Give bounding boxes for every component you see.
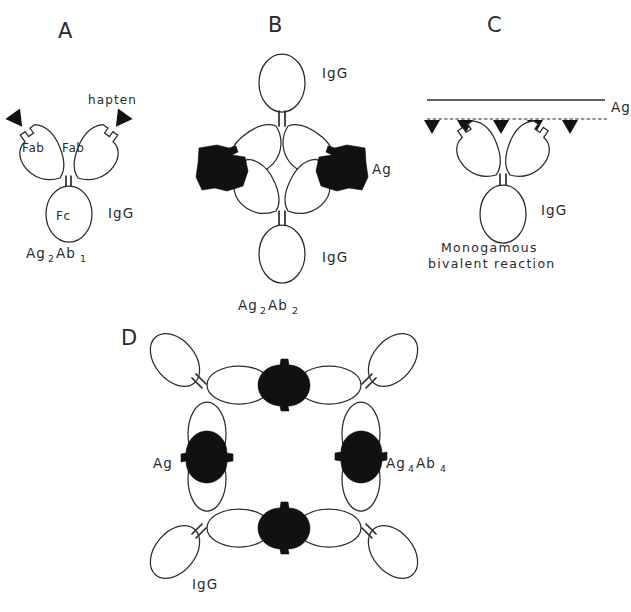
fab-left-label: Fab [22,141,45,155]
panel-b-fc-bottom [259,225,305,283]
formula-ab-sub: 4 [440,463,447,474]
formula-ab-sub: 2 [292,305,299,316]
panel-c-letter: C [487,13,502,37]
epitope-icon-5 [562,120,578,134]
panel-a-igg-label: IgG [108,205,134,221]
formula-ag: Ag [238,297,258,313]
panel-d-letter: D [121,326,137,350]
panel-a: A hapten Fab Fab Fc IgG Ag 2 Ab [5,19,136,264]
formula-ag-sub: 2 [260,305,267,316]
panel-b-letter: B [268,13,282,37]
panel-d-antigen-top [258,359,310,411]
formula-ab: Ab [56,245,76,261]
panel-d-igg-label: IgG [192,576,218,592]
formula-ag-sub: 2 [48,253,55,264]
panel-b-igg-top-label: IgG [322,65,348,81]
formula-ab: Ab [416,455,436,471]
panel-b-ag-label: Ag [372,161,392,177]
hapten-right-icon [109,108,133,132]
panel-d-formula: Ag 4 Ab 4 [386,455,447,474]
epitope-row [424,120,578,134]
formula-ag: Ag [26,245,46,261]
panel-b-formula: Ag 2 Ab 2 [238,297,299,316]
panel-a-hapten-label: hapten [88,93,137,107]
panel-c-caption-line2: bivalent reaction [428,256,556,271]
panel-d: D [121,324,447,592]
panel-c-fc [480,185,526,243]
hapten-left-icon [5,108,29,132]
panel-d-ag-label: Ag [153,455,173,471]
formula-ag: Ag [386,455,406,471]
panel-b-igg-bottom-label: IgG [322,249,348,265]
fab-right-label: Fab [62,141,85,155]
fc-label: Fc [56,209,71,223]
epitope-icon-1 [424,120,440,134]
panel-b-fc-top [259,54,305,112]
panel-c: C Ag IgG Monogamous bivalent reaction [424,13,631,271]
panel-c-ag-label: Ag [611,99,631,115]
formula-ab: Ab [268,297,288,313]
panel-d-antigen-bottom [258,502,310,554]
antibody-antigen-complex-figure: A hapten Fab Fab Fc IgG Ag 2 Ab [0,0,631,612]
formula-ab-sub: 1 [80,253,87,264]
panel-a-formula: Ag 2 Ab 1 [26,245,87,264]
panel-b: B IgG IgG Ag Ag [196,13,392,316]
panel-c-igg-label: IgG [541,202,567,218]
formula-ag-sub: 4 [408,463,415,474]
fab-arm-right [62,120,130,191]
panel-c-caption-line1: Monogamous [441,240,538,255]
epitope-icon-3 [493,120,509,134]
panel-a-letter: A [58,19,73,43]
